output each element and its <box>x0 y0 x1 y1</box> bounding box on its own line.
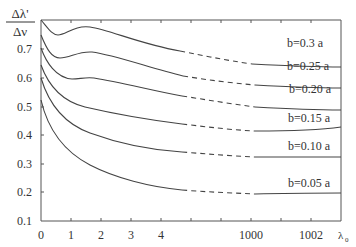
svg-text:0.1: 0.1 <box>17 214 32 228</box>
curve-b-0.25-break <box>183 76 255 85</box>
svg-text:0.7: 0.7 <box>17 42 32 56</box>
curve-b-0.20-tail <box>255 107 341 110</box>
x-ticks <box>71 20 311 221</box>
label-b-0.15: b=0.15 a <box>288 111 331 125</box>
svg-text:0.4: 0.4 <box>17 128 32 142</box>
svg-text:0.6: 0.6 <box>17 71 32 85</box>
y-axis-label: Δλ' Δν <box>6 6 35 39</box>
svg-text:1: 1 <box>68 228 74 242</box>
curve-labels: b=0.3 a b=0.25 a b=0.20 a b=0.15 a b=0.1… <box>287 36 332 190</box>
curve-b-0.3-break <box>180 51 252 64</box>
label-b-0.20: b=0.20 a <box>289 82 332 96</box>
x-tick-labels: 0 1 2 3 4 1000 1002 <box>38 228 323 242</box>
label-b-0.25: b=0.25 a <box>287 59 330 73</box>
curve-b-0.05 <box>41 100 182 190</box>
curve-b-0.10 <box>41 78 182 152</box>
curve-b-0.25 <box>41 35 183 76</box>
label-b-0.3: b=0.3 a <box>287 36 324 50</box>
curve-b-0.10-break <box>182 152 255 157</box>
svg-text:Δλ': Δλ' <box>11 6 28 21</box>
curve-b-0.05-tail <box>255 193 341 194</box>
curve-b-0.05-break <box>182 190 255 194</box>
label-b-0.10: b=0.10 a <box>288 139 331 153</box>
svg-text:2: 2 <box>98 228 104 242</box>
svg-text:Δν: Δν <box>13 24 27 39</box>
x-axis-label: λ 0 <box>338 229 349 244</box>
curve-b-0.20 <box>41 48 182 96</box>
curve-b-0.3 <box>41 20 180 51</box>
svg-text:1000: 1000 <box>239 228 263 242</box>
label-b-0.05: b=0.05 a <box>288 176 331 190</box>
svg-text:3: 3 <box>128 228 134 242</box>
curve-b-0.15-tail <box>255 127 341 131</box>
svg-text:1002: 1002 <box>299 228 323 242</box>
y-tick-labels: 0.1 0.2 0.3 0.4 0.5 0.6 0.7 <box>17 42 32 228</box>
svg-text:0.3: 0.3 <box>17 157 32 171</box>
svg-text:λ: λ <box>338 229 344 241</box>
svg-text:0.2: 0.2 <box>17 185 32 199</box>
svg-text:0.5: 0.5 <box>17 100 32 114</box>
svg-text:0: 0 <box>38 228 44 242</box>
svg-text:0: 0 <box>345 236 349 244</box>
chart: 0 1 2 3 4 1000 1002 λ 0 0.1 0.2 0.3 0.4 … <box>0 0 356 247</box>
curve-b-0.20-break <box>182 96 255 107</box>
curve-b-0.15-break <box>182 124 255 131</box>
svg-text:4: 4 <box>158 228 164 242</box>
